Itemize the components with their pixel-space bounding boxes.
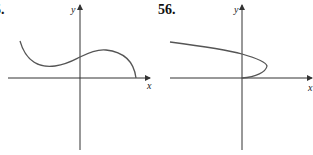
problem-56: 56. y x	[156, 0, 312, 155]
x-axis-label: x	[146, 80, 152, 91]
y-axis-label: y	[70, 4, 76, 15]
graph-55: y x	[0, 0, 156, 155]
x-axis-label: x	[307, 82, 313, 93]
graph-56: y x	[156, 0, 313, 155]
problem-55: 5. y x	[0, 0, 156, 155]
function-curve	[20, 41, 136, 78]
function-curve	[170, 42, 267, 78]
y-axis-label: y	[233, 4, 239, 15]
